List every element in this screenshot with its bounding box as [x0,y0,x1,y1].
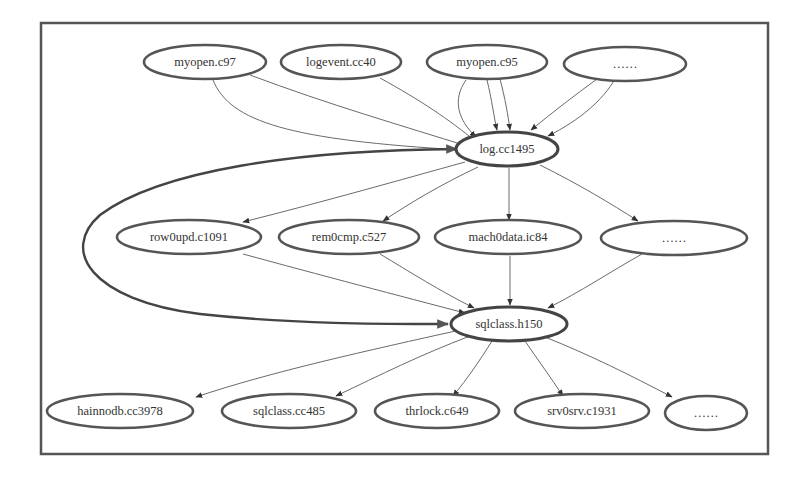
dependency-graph: myopen.c97 logevent.cc40 myopen.c95 …… l… [0,0,808,478]
node-label: srv0srv.c1931 [547,404,617,418]
node-srv0srv-c1931[interactable]: srv0srv.c1931 [515,394,649,428]
node-label: sqlclass.h150 [475,317,542,331]
edge [458,80,476,137]
node-sqlclass-cc485[interactable]: sqlclass.cc485 [222,394,356,428]
node-label: mach0data.ic84 [469,230,549,244]
edge [380,78,475,141]
edge [250,75,470,147]
edge [196,330,460,397]
node-label: log.cc1495 [479,142,534,156]
node-label: hainnodb.cc3978 [77,404,163,418]
edge [548,254,642,308]
node-label: logevent.cc40 [306,55,376,69]
edge [540,165,638,221]
edge [545,337,672,397]
node-mid-more[interactable]: …… [601,221,747,255]
edge [383,167,478,221]
edge [336,336,470,396]
node-hainnodb-cc3978[interactable]: hainnodb.cc3978 [47,394,193,428]
node-label: sqlclass.cc485 [253,404,325,418]
edge [500,79,510,130]
edges-mid [243,162,638,222]
node-label: …… [613,57,638,71]
edge [380,254,474,308]
edges-mid-sql [243,254,642,313]
edges-top [213,75,615,150]
node-sqlclass-h150[interactable]: sqlclass.h150 [451,307,567,341]
node-log-cc1495[interactable]: log.cc1495 [456,132,558,166]
node-myopen-c95[interactable]: myopen.c95 [427,45,547,79]
node-label: rem0cmp.c527 [312,230,387,244]
node-mach0data-ic84[interactable]: mach0data.ic84 [435,220,581,254]
node-label: row0upd.c1091 [150,230,228,244]
edge [213,80,462,150]
node-thrlock-c649[interactable]: thrlock.c649 [375,394,499,428]
node-label: myopen.c97 [174,55,235,69]
node-logevent-cc40[interactable]: logevent.cc40 [281,45,401,79]
node-myopen-c97[interactable]: myopen.c97 [144,45,266,79]
node-label: …… [694,406,719,420]
edge [487,80,497,130]
edge [531,79,597,130]
node-label: thrlock.c649 [406,404,469,418]
edge [243,162,465,222]
edge [525,341,563,396]
edge [548,79,615,136]
edge [453,341,492,396]
node-bottom-more[interactable]: …… [665,396,747,430]
node-top-more[interactable]: …… [564,47,686,81]
edge [243,254,465,313]
node-row0upd-c1091[interactable]: row0upd.c1091 [117,220,261,254]
edges-bottom [196,330,672,397]
node-label: myopen.c95 [456,55,517,69]
node-rem0cmp-c527[interactable]: rem0cmp.c527 [279,220,419,254]
node-label: …… [662,231,687,245]
